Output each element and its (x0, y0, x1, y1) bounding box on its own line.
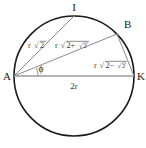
geometry-figure: A I B K ϕ r √ 2 r √ 2+ √ 2 r √ 2− (0, 0, 146, 148)
label-chord-AB-prefix: r (55, 41, 58, 50)
label-chord-BK-radicand: 2− (106, 61, 115, 70)
label-diameter-AK: 2r (70, 81, 78, 91)
vertex-label-K: K (137, 70, 145, 82)
label-chord-AI-radicand: 2 (40, 41, 44, 50)
vertex-label-I: I (72, 1, 76, 13)
radical-icon: √ (118, 62, 122, 69)
label-chord-BK-nested: 2 (122, 62, 125, 69)
label-chord-AB: r √ 2+ √ 2 (55, 41, 89, 50)
radical-icon: √ (61, 41, 66, 50)
radical-icon: √ (79, 42, 83, 49)
vertex-label-A: A (3, 70, 11, 82)
label-chord-BK: r √ 2− √ 2 (94, 61, 127, 70)
label-chord-BK-prefix: r (94, 61, 97, 70)
label-chord-AB-radicand: 2+ (67, 41, 76, 50)
radical-icon: √ (34, 41, 39, 50)
label-chord-AB-nested: 2 (84, 42, 87, 49)
label-chord-AI-prefix: r (28, 41, 31, 50)
circle-diagram-canvas: A I B K ϕ r √ 2 r √ 2+ √ 2 r √ 2− (0, 0, 146, 148)
angle-label-phi: ϕ (38, 64, 43, 74)
segment-chord-BK (117, 34, 134, 76)
vertex-label-B: B (124, 18, 131, 30)
label-chord-AI: r √ 2 (28, 41, 46, 50)
radical-icon: √ (100, 61, 105, 70)
